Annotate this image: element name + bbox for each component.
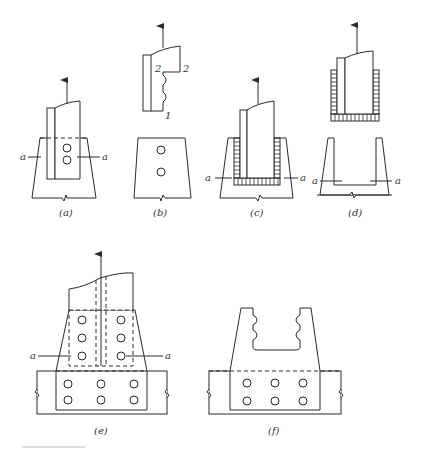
bolt-hole [117,352,125,360]
member-leg [143,55,151,111]
bolt-hole [243,379,251,387]
bolt-hole [157,168,165,176]
bolt-hole [299,397,307,405]
panel-f: (f) [207,308,343,436]
section-label: a [395,175,401,186]
bolt-hole [64,380,72,388]
section-label: a [205,172,211,183]
panel-caption: (c) [250,207,264,218]
panel-e: a a (e) [30,254,171,436]
bolt-hole [243,397,251,405]
bolt-hole [63,144,71,152]
section-label: a [102,151,108,162]
section-label: a [30,350,36,361]
bolt-hole [78,352,86,360]
tear-label: 2 [154,63,161,74]
panel-d: a a (d) [312,25,401,218]
panel-caption: (b) [153,207,167,218]
tear-label: 2 [182,63,189,74]
bolt-hole [78,316,86,324]
member-leg [337,58,345,114]
panel-caption: (f) [268,425,280,436]
shear-zone-left [331,70,337,114]
member-body [345,51,373,114]
section-label: a [20,151,26,162]
panel-c: a a (c) [205,80,306,218]
section-label: a [312,175,318,186]
break-symbol [350,192,356,198]
tension-zone-bottom [234,178,280,185]
panel-b: 2 2 1 (b) [134,26,191,218]
section-label: a [300,172,306,183]
break-symbol [165,389,169,398]
break-symbol [339,389,343,398]
bolt-hole [63,156,71,164]
gusset-torn [230,308,320,410]
break-symbol [35,389,39,398]
panel-a: a a (a) [20,80,108,218]
panel-caption: (e) [94,425,108,436]
member-torn-body [151,46,180,111]
member-body [247,101,274,178]
bolt-hole [130,396,138,404]
bolt-hole [97,396,105,404]
break-symbol [207,389,211,398]
bolt-hole [299,379,307,387]
gusset-remnant [320,138,389,195]
tear-label: 1 [165,110,171,121]
bolt-hole [117,334,125,342]
bolt-hole [117,316,125,324]
section-label: a [165,350,171,361]
member-leg [240,110,247,178]
panel-caption: (d) [348,207,362,218]
connection-failure-diagram: a a (a) 2 2 1 (b) a a ( [0,0,423,449]
panel-caption: (a) [59,207,73,218]
bolt-hole [157,146,165,154]
bolt-hole [64,396,72,404]
bolt-hole [130,380,138,388]
member-body [55,101,80,179]
bolt-hole [271,397,279,405]
bolt-hole [97,380,105,388]
bolt-hole [271,379,279,387]
member-leg [47,108,55,179]
bolt-hole [78,334,86,342]
shear-zone-right [373,70,379,114]
